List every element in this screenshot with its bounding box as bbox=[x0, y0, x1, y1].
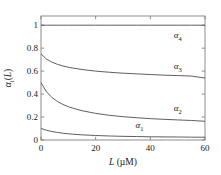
x-tick-label: 0 bbox=[39, 144, 44, 153]
y-tick-label: 0.6 bbox=[27, 67, 38, 76]
x-axis-title: L (µM) bbox=[109, 158, 137, 168]
x-tick-label: 20 bbox=[91, 144, 100, 153]
curve-label-α4: α4 bbox=[174, 31, 182, 42]
y-axis-title: αi(L) bbox=[4, 69, 16, 88]
curve-label-α1: α1 bbox=[135, 121, 143, 132]
curve-label-α3: α3 bbox=[174, 63, 182, 74]
y-tick-label: 0.4 bbox=[27, 90, 38, 99]
y-tick-label: 0.8 bbox=[27, 44, 38, 53]
figure-container: 00.20.40.60.81 0204060 α4α3α2α1 L (µM) α… bbox=[0, 0, 221, 175]
curve-α1 bbox=[41, 129, 205, 138]
x-tick-label: 40 bbox=[146, 144, 155, 153]
curve-label-α2: α2 bbox=[174, 104, 182, 115]
y-tick-label: 1 bbox=[34, 21, 39, 30]
curve-α2 bbox=[41, 83, 205, 122]
y-tick-label: 0 bbox=[34, 136, 39, 145]
x-tick-label: 60 bbox=[201, 144, 210, 153]
y-tick-label: 0.2 bbox=[27, 113, 38, 122]
